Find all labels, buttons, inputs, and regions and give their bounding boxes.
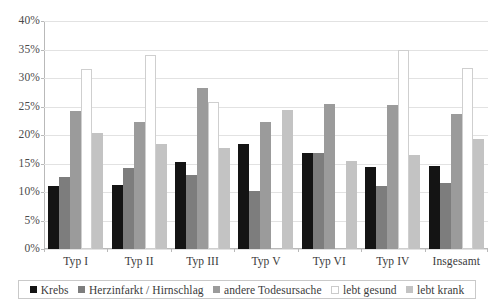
legend-swatch-herzinfarkt <box>78 286 85 293</box>
bar <box>440 183 451 249</box>
bar-group-bars <box>44 21 107 249</box>
bar <box>302 153 313 249</box>
bar <box>473 139 484 249</box>
x-axis-tick <box>171 249 172 252</box>
bar <box>282 110 293 249</box>
x-axis-tick <box>44 249 45 252</box>
bar <box>123 168 134 249</box>
bar-group-bars <box>361 21 424 249</box>
bar <box>145 55 156 249</box>
bar <box>409 155 420 249</box>
x-axis-tick <box>361 249 362 252</box>
bar-group <box>361 21 424 249</box>
x-axis-tick <box>107 249 108 252</box>
legend-item-label: andere Todesursache <box>224 284 322 296</box>
x-axis-tick <box>487 249 488 252</box>
legend-item-label: Krebs <box>41 284 69 296</box>
bar <box>219 148 230 249</box>
legend-swatch-lebt-gesund <box>331 286 339 294</box>
bar <box>451 114 462 249</box>
bar-group <box>44 21 107 249</box>
bar-group-bars <box>234 21 297 249</box>
bar-groups <box>44 21 488 249</box>
bar <box>462 68 473 249</box>
legend-item-label: lebt krank <box>417 284 464 296</box>
y-axis-tick-label: 10% <box>0 186 40 197</box>
bar-group <box>298 21 361 249</box>
legend-item-label: lebt gesund <box>343 284 397 296</box>
bar <box>156 144 167 249</box>
x-axis-label: Typ IV <box>361 254 424 268</box>
bar <box>59 177 70 249</box>
legend-item[interactable]: lebt gesund <box>331 284 397 296</box>
bar <box>429 166 440 249</box>
x-axis-tick <box>234 249 235 252</box>
gridline <box>44 249 488 250</box>
bar <box>324 104 335 249</box>
legend-item[interactable]: Krebs <box>30 284 69 296</box>
bar <box>249 191 260 249</box>
bar <box>346 161 357 249</box>
y-axis-tick-label: 25% <box>0 101 40 112</box>
bar <box>260 122 271 249</box>
bar-group-bars <box>171 21 234 249</box>
y-axis-tick-label: 35% <box>0 44 40 55</box>
bar <box>175 162 186 249</box>
legend-item[interactable]: Herzinfarkt / Hirnschlag <box>78 284 204 296</box>
chart-legend: KrebsHerzinfarkt / Hirnschlagandere Tode… <box>18 280 476 299</box>
plot-area <box>44 21 488 249</box>
x-axis-label: Typ I <box>44 254 107 268</box>
legend-item[interactable]: andere Todesursache <box>213 284 322 296</box>
bar <box>112 185 123 249</box>
bar-group <box>171 21 234 249</box>
bar <box>238 144 249 249</box>
x-axis-label: Insgesamt <box>425 254 488 268</box>
y-axis-tick-label: 0% <box>0 243 40 254</box>
bar <box>208 102 219 249</box>
legend-item-label: Herzinfarkt / Hirnschlag <box>89 284 204 296</box>
bar <box>48 186 59 249</box>
x-axis-tick <box>425 249 426 252</box>
bar <box>134 122 145 249</box>
x-axis-label: Typ VI <box>298 254 361 268</box>
x-axis-tick <box>298 249 299 252</box>
bar <box>398 50 409 250</box>
bar <box>70 111 81 250</box>
bar-group <box>107 21 170 249</box>
legend-item[interactable]: lebt krank <box>406 284 464 296</box>
bar <box>365 167 376 249</box>
bar <box>186 175 197 249</box>
bar <box>313 153 324 249</box>
y-axis-tick-label: 40% <box>0 15 40 26</box>
bar <box>92 133 103 249</box>
y-axis-tick-label: 20% <box>0 129 40 140</box>
legend-swatch-lebt-krank <box>406 286 413 293</box>
bar <box>376 186 387 249</box>
y-axis-tick-label: 30% <box>0 72 40 83</box>
bar-group <box>234 21 297 249</box>
bar <box>387 105 398 249</box>
x-axis-label: Typ II <box>107 254 170 268</box>
bar-group-bars <box>107 21 170 249</box>
legend-swatch-krebs <box>30 286 37 293</box>
bar-group-bars <box>298 21 361 249</box>
y-axis-tick-label: 15% <box>0 158 40 169</box>
bar-group-bars <box>425 21 488 249</box>
legend-swatch-andere-todesursache <box>213 286 220 293</box>
x-axis-label: Typ V <box>234 254 297 268</box>
bar <box>81 69 92 249</box>
bar <box>197 88 208 249</box>
x-axis-labels: Typ ITyp IITyp IIITyp VTyp VITyp IVInsge… <box>44 254 488 268</box>
y-axis-tick-label: 5% <box>0 215 40 226</box>
bar-group <box>425 21 488 249</box>
bar-chart: 40%35%30%25%20%15%10%5%0% Typ ITyp IITyp… <box>0 0 494 307</box>
x-axis-label: Typ III <box>171 254 234 268</box>
